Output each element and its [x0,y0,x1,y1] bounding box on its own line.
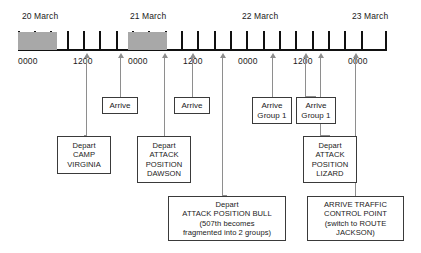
event-callout-arrive-group-1-a: ArriveGroup 1 [252,97,292,124]
leader-arrowhead-icon [118,53,124,58]
date-label: 22 March [242,11,278,21]
event-callout-arrive-traffic-control-point: ARRIVE TRAFFICCONTROL POINT(switch to RO… [307,196,404,241]
leader-line [222,56,223,196]
date-label: 21 March [130,11,166,21]
callout-line: CAMP [61,150,107,159]
callout-line: ATTACK POSITION BULL [172,209,282,218]
callout-line: fragmented into 2 groups) [172,228,282,237]
event-callout-depart-attack-position-dawson: DepartATTACKPOSITIONDAWSON [137,136,191,183]
callout-line: Group 1 [300,111,332,121]
event-callout-arrive-group-1-b: ArriveGroup 1 [296,97,336,124]
date-label: 23 March [352,11,388,21]
axis-tick [83,31,85,50]
callout-line: JACKSON) [311,228,400,237]
axis-tick [214,31,216,50]
leader-line [86,56,87,136]
axis-tick [230,31,232,50]
axis-tick [246,31,248,50]
callout-line: ATTACK [307,150,353,159]
leader-line [272,56,273,97]
callout-line: Depart [307,141,353,150]
callout-line: Group 1 [256,111,288,121]
callout-line: Arrive [178,101,206,111]
callout-line: DAWSON [141,169,187,178]
leader-arrowhead-icon [303,53,309,58]
axis-tick [181,31,183,50]
leader-arrowhead-icon [162,53,168,58]
shaded-period [128,32,167,50]
leader-line [320,56,321,136]
callout-line: POSITION [141,160,187,169]
leader-arrowhead-icon [220,53,226,58]
callout-line: Depart [172,200,282,209]
callout-line: POSITION [307,160,353,169]
axis-tick [197,31,199,50]
callout-line: ATTACK [141,150,187,159]
event-callout-arrive-2: Arrive [174,97,210,114]
callout-line: Arrive [256,101,288,111]
axis-tick [67,31,69,50]
callout-line: Depart [141,141,187,150]
axis-baseline [18,49,386,51]
axis-tick [361,31,363,50]
time-label: 0000 [18,56,38,66]
axis-tick [312,31,314,50]
event-callout-depart-attack-position-bull: DepartATTACK POSITION BULL(507th becomes… [168,196,286,241]
time-label: 0000 [238,56,258,66]
callout-line: Depart [61,141,107,150]
axis-tick [328,31,330,50]
event-callout-depart-camp-virginia: DepartCAMPVIRGINIA [57,136,111,174]
callout-line: (switch to ROUTE [311,219,400,228]
leader-arrowhead-icon [318,53,324,58]
event-callout-arrive-1: Arrive [102,97,138,114]
axis-tick [385,31,387,51]
leader-arrowhead-icon [353,53,359,58]
event-callout-depart-attack-position-lizard: DepartATTACKPOSITIONLIZARD [303,136,357,183]
callout-line: Arrive [106,101,134,111]
callout-line: (507th becomes [172,219,282,228]
axis-tick [99,31,101,50]
leader-arrowhead-icon [190,53,196,58]
callout-line: LIZARD [307,169,353,178]
leader-line [192,56,193,97]
shaded-period [18,32,57,50]
leader-arrowhead-icon [270,53,276,58]
leader-line [305,56,306,97]
timeline-figure: 20 March21 March22 March23 March 0000120… [0,0,421,253]
time-label: 0000 [128,56,148,66]
callout-line: VIRGINIA [61,160,107,169]
axis-tick [279,31,281,50]
callout-line: CONTROL POINT [311,209,400,218]
axis-tick [344,31,346,50]
axis-tick [295,31,297,50]
callout-line: ARRIVE TRAFFIC [311,200,400,209]
axis-tick [116,31,118,50]
leader-line [120,56,121,97]
callout-line: Arrive [300,101,332,111]
date-label: 20 March [22,11,58,21]
leader-line [164,56,165,136]
axis-tick [263,31,265,50]
leader-arrowhead-icon [84,53,90,58]
